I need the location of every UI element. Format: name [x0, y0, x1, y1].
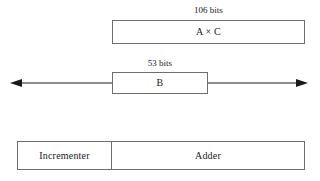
unit-cell-incrementer: Incrementer — [18, 142, 112, 169]
product-box: A × C — [112, 20, 305, 44]
multiply-add-datapath-diagram: 106 bits A × C 53 bits B Incrementer Add… — [0, 0, 320, 181]
functional-unit-bar: Incrementer Adder — [17, 141, 305, 170]
unit-incrementer-label: Incrementer — [39, 151, 90, 161]
unit-adder-label: Adder — [195, 151, 221, 161]
addend-width-caption: 53 bits — [112, 59, 208, 68]
addend-box: B — [112, 72, 208, 94]
product-width-caption: 106 bits — [112, 6, 305, 15]
unit-cell-adder: Adder — [112, 142, 304, 169]
product-box-label: A × C — [196, 27, 221, 37]
addend-box-label: B — [157, 78, 164, 88]
